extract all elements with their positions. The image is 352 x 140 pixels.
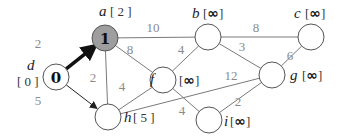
node-distance-g: [∞] bbox=[302, 67, 322, 83]
edge-weight-b-f: 4 bbox=[178, 42, 185, 57]
edge-weight-h-g: 12 bbox=[225, 68, 238, 83]
node-h[interactable] bbox=[95, 104, 121, 130]
node-distance-c: [∞] bbox=[305, 5, 325, 21]
edge-weight-a-h: 2 bbox=[90, 70, 97, 85]
node-name-a: a bbox=[99, 3, 107, 19]
node-circle-b[interactable] bbox=[195, 24, 221, 50]
edge-weight-c-g: 6 bbox=[287, 48, 294, 63]
node-distance-a: [ 2 ] bbox=[110, 4, 132, 19]
edge-weight-a-f: 8 bbox=[127, 42, 134, 57]
node-i[interactable] bbox=[196, 107, 222, 133]
node-name-c: c bbox=[294, 5, 301, 21]
node-distance-b: [∞] bbox=[203, 5, 223, 21]
node-a[interactable]: 1 bbox=[92, 25, 118, 51]
node-distance-f: [∞] bbox=[179, 72, 199, 88]
edge-a-f bbox=[116, 46, 153, 73]
edge-weight-d-h: 5 bbox=[35, 93, 42, 108]
edge-weight-i-g: 2 bbox=[235, 94, 242, 109]
edge-b-f bbox=[172, 46, 198, 71]
node-distance-i: [∞] bbox=[230, 113, 250, 129]
edge-a-b bbox=[118, 37, 195, 38]
graph-diagram: 251082843644122 10 a[ 2 ]b[∞]c[∞]d[ 0 ]f… bbox=[0, 0, 352, 140]
node-distance-d: [ 0 ] bbox=[17, 74, 39, 89]
node-circle-h[interactable] bbox=[95, 104, 121, 130]
node-name-b: b bbox=[192, 5, 200, 21]
node-name-g: g bbox=[290, 67, 298, 83]
edge-weight-b-c: 8 bbox=[253, 20, 260, 35]
node-name-h: h bbox=[124, 109, 132, 125]
edge-weight-f-i: 4 bbox=[179, 103, 186, 118]
node-b[interactable] bbox=[195, 24, 221, 50]
edge-weight-f-h: 4 bbox=[119, 79, 126, 94]
node-d[interactable]: 0 bbox=[43, 64, 69, 90]
node-order-d: 0 bbox=[51, 69, 61, 87]
node-name-i: i bbox=[224, 113, 228, 129]
edge-d-a bbox=[66, 47, 93, 69]
node-order-a: 1 bbox=[100, 30, 110, 48]
edge-a-h bbox=[105, 51, 107, 104]
node-distance-h: [ 5 ] bbox=[133, 110, 155, 125]
node-circle-i[interactable] bbox=[196, 107, 222, 133]
edge-d-h bbox=[66, 85, 97, 109]
node-name-d: d bbox=[27, 57, 35, 73]
edge-weight-b-g: 3 bbox=[239, 39, 246, 54]
node-c[interactable] bbox=[298, 24, 324, 50]
edge-f-i bbox=[173, 89, 199, 112]
node-circle-g[interactable] bbox=[259, 62, 285, 88]
node-circle-c[interactable] bbox=[298, 24, 324, 50]
edge-weight-d-a: 2 bbox=[35, 36, 42, 51]
node-g[interactable] bbox=[259, 62, 285, 88]
edge-weight-a-b: 10 bbox=[147, 20, 160, 35]
